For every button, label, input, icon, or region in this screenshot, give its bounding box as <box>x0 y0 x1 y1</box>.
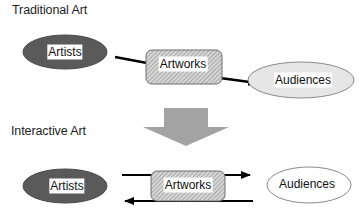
artists-label: Artists <box>47 45 82 60</box>
audiences-label: Audiences <box>278 177 336 192</box>
interactive-art-title: Interactive Art <box>11 124 86 138</box>
audiences-label: Audiences <box>274 73 332 88</box>
down-arrow-icon <box>143 108 229 146</box>
connector-artists-artworks <box>115 57 147 63</box>
artworks-label: Artworks <box>164 178 213 193</box>
traditional-art-title: Traditional Art <box>12 3 87 17</box>
artworks-label: Artworks <box>159 57 208 72</box>
artists-label: Artists <box>49 179 84 194</box>
